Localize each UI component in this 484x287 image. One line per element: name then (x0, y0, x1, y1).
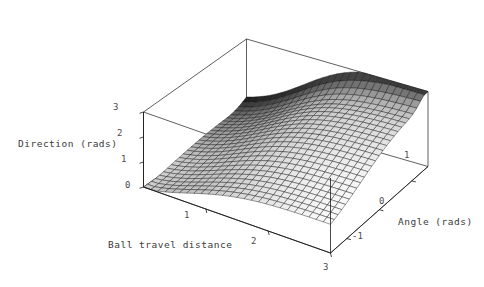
z-axis-label: Direction (rads) (18, 138, 118, 149)
y-tick-mark (347, 239, 351, 240)
z-tick-mark (140, 162, 144, 163)
x-tick-mark (331, 253, 332, 257)
z-tick: 2 (117, 128, 122, 138)
box-top-left-edge (144, 39, 247, 112)
surface-plot-figure: Direction (rads) Ball travel distance An… (0, 0, 484, 287)
z-tick: 3 (113, 102, 118, 112)
z-tick: 0 (125, 180, 130, 190)
y-axis-label: Angle (rads) (398, 216, 473, 227)
y-tick-mark (379, 210, 383, 211)
x-tick: 3 (323, 262, 328, 272)
y-tick: -1 (352, 231, 363, 241)
z-tick-mark (140, 112, 144, 113)
z-tick-mark (140, 187, 144, 188)
x-tick: 2 (251, 236, 256, 246)
z-tick: 1 (121, 154, 126, 164)
z-tick-mark (140, 137, 144, 138)
x-tick: 1 (184, 210, 189, 220)
y-tick: 1 (404, 150, 409, 160)
x-axis-label: Ball travel distance (108, 239, 232, 250)
y-tick: 0 (379, 196, 384, 206)
y-tick-mark (412, 181, 416, 182)
surface-mesh (144, 72, 429, 224)
